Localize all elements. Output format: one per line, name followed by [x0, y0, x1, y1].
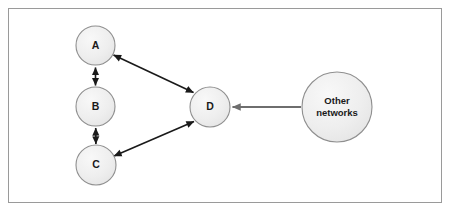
node-d[interactable]: D [190, 87, 230, 127]
node-b-label: B [92, 100, 100, 112]
diagram-canvas: A B C D Other networks [0, 0, 451, 213]
node-c[interactable]: C [76, 145, 116, 185]
node-b[interactable]: B [76, 87, 115, 126]
node-other-networks-label-line2: networks [316, 107, 358, 118]
edge-a-d [114, 55, 194, 93]
node-layer: A B C D Other networks [76, 26, 372, 185]
node-other-networks[interactable]: Other networks [302, 72, 372, 142]
node-c-label: C [92, 158, 100, 170]
diagram-graphics: A B C D Other networks [0, 0, 451, 213]
node-a-label: A [92, 39, 100, 51]
node-other-networks-label-line1: Other [324, 95, 350, 106]
node-d-label: D [206, 100, 214, 112]
node-a[interactable]: A [76, 26, 115, 65]
edge-c-d [114, 122, 194, 157]
